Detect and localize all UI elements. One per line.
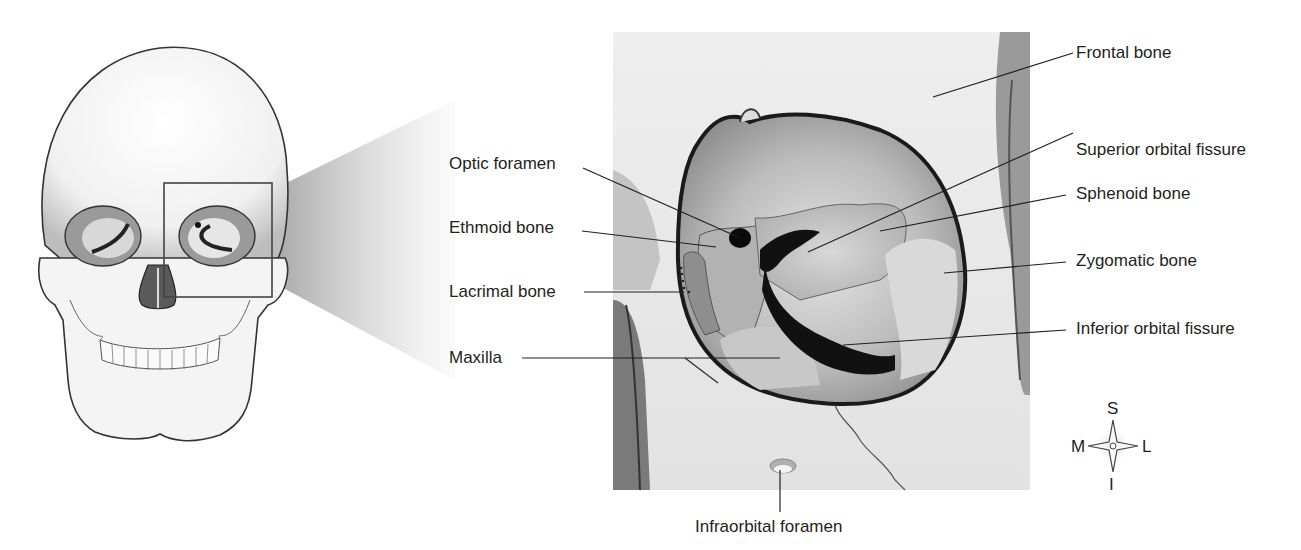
optic-foramen-shape xyxy=(729,228,751,248)
label-lacrimal-bone: Lacrimal bone xyxy=(449,282,556,302)
skull-illustration xyxy=(39,47,288,440)
compass-superior: S xyxy=(1107,399,1118,419)
label-sphenoid-bone: Sphenoid bone xyxy=(1076,184,1190,204)
label-inferior-orbital-fissure: Inferior orbital fissure xyxy=(1076,319,1235,339)
label-infraorbital-foramen: Infraorbital foramen xyxy=(695,517,842,537)
orbit-detail-panel xyxy=(613,32,1030,490)
label-optic-foramen: Optic foramen xyxy=(449,154,556,174)
label-frontal-bone: Frontal bone xyxy=(1076,43,1171,63)
label-ethmoid-bone: Ethmoid bone xyxy=(449,218,554,238)
label-superior-orbital-fissure: Superior orbital fissure xyxy=(1076,140,1246,160)
compass-lateral: L xyxy=(1142,437,1151,457)
orientation-compass xyxy=(1088,420,1138,472)
orbit-diagram xyxy=(0,0,1301,550)
compass-inferior: I xyxy=(1109,475,1114,495)
label-maxilla: Maxilla xyxy=(449,348,502,368)
label-zygomatic-bone: Zygomatic bone xyxy=(1076,251,1197,271)
compass-medial: M xyxy=(1071,437,1085,457)
zoom-cone xyxy=(272,100,455,380)
